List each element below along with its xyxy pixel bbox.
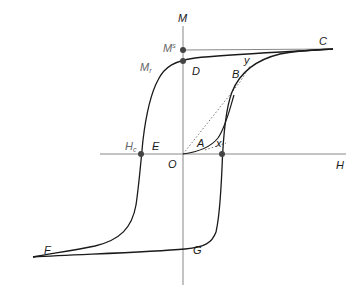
point-a-label: A	[196, 137, 204, 149]
hysteresis-diagram: M H Ms Mr Hc D E O A x B y C F G	[0, 0, 361, 293]
point-x-label: x	[215, 137, 222, 149]
point-g-label: G	[193, 244, 202, 256]
positive-coercive-dot	[219, 151, 225, 157]
mr-label-sub: r	[149, 67, 152, 74]
mr-dot	[180, 58, 186, 64]
point-e-label: E	[152, 140, 160, 152]
point-d-label: D	[192, 65, 200, 77]
h-axis-label: H	[336, 159, 344, 171]
hc-dot	[138, 151, 144, 157]
origin-label: O	[168, 158, 177, 170]
mr-label: Mr	[140, 61, 152, 74]
hc-label-base: H	[125, 140, 133, 152]
hc-label: Hc	[125, 140, 137, 153]
initial-magnetization-curve	[183, 95, 234, 154]
ms-dot	[180, 47, 186, 53]
m-axis-label: M	[178, 12, 188, 24]
point-c-label: C	[319, 35, 327, 47]
ms-label-sup: s	[172, 42, 176, 49]
point-b-label: B	[232, 68, 239, 80]
hc-label-sub: c	[133, 146, 137, 153]
point-y-label: y	[243, 54, 251, 66]
ms-label: Ms	[163, 42, 176, 54]
